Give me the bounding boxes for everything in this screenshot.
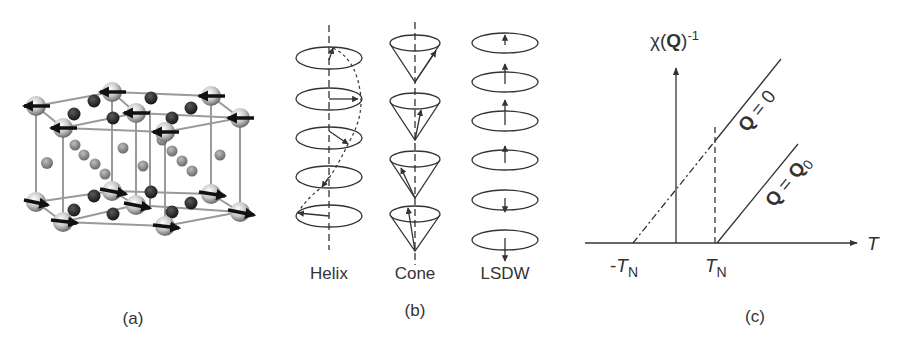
cone-structure xyxy=(390,22,440,265)
q-q0-label: Q = Q0 xyxy=(761,151,817,212)
x-axis-label: T xyxy=(867,233,880,254)
magnetic-atoms-bottom xyxy=(24,181,254,236)
interior-atoms xyxy=(41,135,226,180)
panel-c-susceptibility-plot: χ(Q)-1 T -TN TN Q = 0 Q = Q0 (c) xyxy=(585,28,880,326)
helix-structure xyxy=(296,25,362,250)
lsdw-structure xyxy=(472,33,538,261)
panel-c-label: (c) xyxy=(745,307,765,326)
panel-a-crystal-structure: (a) xyxy=(24,82,254,328)
helix-label: Helix xyxy=(310,264,348,283)
y-axis-label: χ(Q)-1 xyxy=(650,28,699,51)
panel-b-spin-structures: Helix Con xyxy=(296,22,538,320)
magnetic-atoms-top xyxy=(24,82,254,142)
panel-b-label: (b) xyxy=(405,301,426,320)
q-zero-label: Q = 0 xyxy=(734,86,780,136)
q0-extrapolation xyxy=(633,141,715,243)
tick-neg-tn: -TN xyxy=(610,255,638,280)
tick-tn: TN xyxy=(705,255,727,280)
panel-a-label: (a) xyxy=(123,309,144,328)
cone-label: Cone xyxy=(395,264,436,283)
lsdw-label: LSDW xyxy=(480,264,529,283)
figure-canvas: (a) Helix xyxy=(0,0,898,344)
